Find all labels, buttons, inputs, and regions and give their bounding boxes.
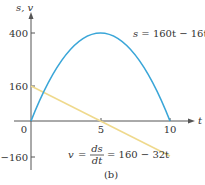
x-axis-arrow-icon — [188, 119, 195, 124]
x-tick-label-10: 10 — [164, 124, 177, 135]
v-eq-equals: = — [78, 149, 86, 160]
v-eq-rhs: = 160 − 32t — [107, 149, 169, 160]
origin-label: 0 — [21, 124, 27, 135]
y-tick-label-160: 160 — [9, 81, 28, 92]
position-curve — [31, 33, 170, 121]
y-tick-label-neg160: −160 — [1, 152, 28, 163]
figure-caption: (b) — [104, 169, 118, 180]
v-eq-numerator: ds — [91, 143, 103, 154]
y-axis-label: s, v — [16, 2, 33, 13]
v-eq-lhs: v — [68, 149, 74, 160]
y-tick-label-400: 400 — [9, 28, 28, 39]
s-equation: s = 160t − 16t2 — [133, 27, 205, 39]
chart: 400 160 −160 0 5 10 s, v t s = 160t − 16… — [0, 0, 205, 185]
y-axis-arrow-icon — [29, 12, 34, 19]
v-eq-denominator: dt — [92, 155, 103, 166]
v-equation: v = ds dt = 160 − 32t — [68, 143, 169, 166]
x-tick-label-5: 5 — [98, 124, 104, 135]
x-axis-label: t — [198, 115, 203, 126]
